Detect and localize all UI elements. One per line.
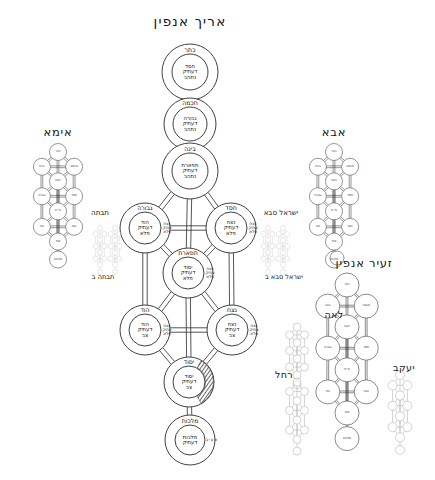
mini-sefirah-yesod xyxy=(293,436,301,444)
sefirah-inner-text-chochmah: גבורהדעתיקנתהב xyxy=(183,116,198,132)
mini-tree-edge xyxy=(403,379,405,382)
tree-imma-label-tiferet: ת״ת xyxy=(55,210,61,213)
mini-tree-edge xyxy=(270,242,271,244)
mini-sefirah-yesod xyxy=(293,371,301,379)
tree-edge xyxy=(158,292,171,309)
sefirah-name-yesod: יסוד xyxy=(184,359,194,365)
mini-tree-edge xyxy=(292,395,294,398)
mini-sefirah-keter xyxy=(293,323,301,331)
mini-tree-edge xyxy=(285,230,286,232)
mini-sefirah-keter xyxy=(97,225,102,230)
mini-tree-edge xyxy=(299,423,302,427)
mini-sefirah-binah xyxy=(286,388,294,396)
mini-sefirah-tiferet xyxy=(97,250,102,255)
tree-imma-label-keter: כתר xyxy=(55,150,60,153)
tree-abba-label-tiferet: ת״ת xyxy=(331,210,337,213)
mini-sefirah-binah xyxy=(276,231,281,236)
title-zeir-anpin: זעיר אנפין xyxy=(335,258,392,270)
tree-edge xyxy=(162,194,174,209)
tree-zeir-anpin-label-gevurah: גבורה xyxy=(324,347,331,350)
tree-zeir-anpin-label-malchut: מלכות xyxy=(343,437,351,440)
mini-tree-edge xyxy=(270,236,271,238)
tree-abba-label-netzach: נצח xyxy=(348,225,353,228)
tree-imma-label-daat: דעת xyxy=(55,180,61,183)
tree-decor-right-a xyxy=(261,225,275,274)
mini-tree-edge xyxy=(300,370,302,372)
mini-tree-edge xyxy=(117,261,118,263)
mini-sefirah-yesod xyxy=(396,433,405,442)
mini-tree-edge xyxy=(280,230,281,232)
sefirah-inner-text-malchut: מלכותדעתיק xyxy=(183,435,198,446)
title-abba: אבא xyxy=(322,127,346,139)
tree-abba-label-daat: דעת xyxy=(331,180,337,183)
mini-tree-edge xyxy=(285,236,286,238)
mini-tree-edge xyxy=(102,261,103,263)
tree-imma-label-binah: בינה xyxy=(39,165,45,168)
mini-tree-edge xyxy=(101,255,102,257)
mini-sefirah-netzach xyxy=(300,426,308,434)
tree-imma-label-malchut: מלכות xyxy=(54,258,62,261)
tree-imma-label-chesed: חסד xyxy=(71,195,77,198)
tree-edge xyxy=(208,192,218,206)
sefirah-inner-text-tiferet: יסודדעתיקפלא xyxy=(181,265,196,281)
tree-edge xyxy=(159,192,171,207)
mini-tree-edge xyxy=(117,230,118,232)
title-yaakov: יעקב xyxy=(393,363,415,373)
mini-tree-edge xyxy=(403,409,405,412)
mini-tree-edge xyxy=(280,242,281,244)
mini-tree-edge xyxy=(299,433,302,436)
side-label-right-lower: ישראל סבא ב xyxy=(265,274,303,281)
tree-of-life-vector-layer xyxy=(0,0,435,480)
tree-edge xyxy=(163,348,175,362)
sefirah-name-chochmah: חכמה xyxy=(182,100,198,106)
mini-sefirah-binah xyxy=(108,231,113,236)
mini-sefirah-tiferet xyxy=(280,250,285,255)
mini-tree-edge xyxy=(101,248,102,250)
mini-sefirah-chochmah xyxy=(270,231,275,236)
mini-tree-edge xyxy=(403,420,405,423)
mini-sefirah-chesed xyxy=(300,406,308,414)
mini-tree-edge xyxy=(97,248,98,250)
mini-tree-edge xyxy=(299,404,302,407)
mini-sefirah-daat xyxy=(293,397,301,405)
mini-sefirah-gevurah xyxy=(388,401,397,410)
mini-sefirah-hod xyxy=(108,256,113,261)
tree-imma-label-netzach: נצח xyxy=(72,225,77,228)
mini-sefirah-binah xyxy=(286,331,294,339)
mini-sefirah-daat xyxy=(112,237,117,242)
title-rachel: רחל xyxy=(275,370,293,380)
sefirah-side-tag-gevurah: נצחעתיקפלא xyxy=(162,222,171,235)
mini-sefirah-hod xyxy=(276,256,281,261)
sefirah-name-keter: כתר xyxy=(185,46,196,52)
mini-tree-edge xyxy=(395,409,397,412)
sefirah-name-netzach: נצח xyxy=(227,307,237,313)
mini-tree-edge xyxy=(292,330,294,332)
mini-tree-edge xyxy=(292,362,294,364)
tree-edge xyxy=(202,294,215,311)
mini-tree-edge xyxy=(300,338,302,340)
mini-sefirah-yesod xyxy=(265,262,270,267)
sefirah-inner-text-chesed: נצחדעתיקפלא xyxy=(224,220,239,236)
mini-tree-edge xyxy=(102,236,103,238)
mini-tree-edge xyxy=(300,330,302,332)
mini-tree-edge xyxy=(299,414,302,417)
mini-tree-edge xyxy=(280,261,281,263)
tree-edge xyxy=(203,348,214,361)
mini-tree-edge xyxy=(97,255,98,257)
mini-tree-edge xyxy=(284,248,285,250)
mini-sefirah-chochmah xyxy=(117,231,122,236)
mini-tree-edge xyxy=(112,248,113,250)
mini-tree-edge xyxy=(102,230,103,232)
tree-edge xyxy=(162,294,175,311)
mini-tree-edge xyxy=(395,431,397,434)
mini-tree-edge xyxy=(269,248,270,250)
mini-sefirah-tiferet xyxy=(293,416,301,424)
tree-abba-label-chesed: חסד xyxy=(347,195,353,198)
mini-tree-edge xyxy=(265,255,266,257)
tree-abba xyxy=(309,144,358,269)
mini-tree-edge xyxy=(285,242,286,244)
sefirah-inner-text-binah: תפארתדעתיקנתהב xyxy=(182,163,199,179)
mini-tree-edge xyxy=(403,431,405,434)
tree-edge xyxy=(186,199,187,248)
tree-edge xyxy=(159,351,171,365)
